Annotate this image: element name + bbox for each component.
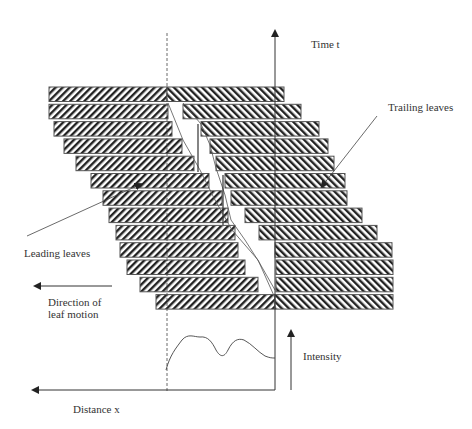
trailing-leaf-7 <box>231 191 347 206</box>
leading-leaves-label: Leading leaves <box>24 247 90 259</box>
trailing-leaf-13 <box>275 295 393 310</box>
trailing-leaf-3 <box>201 122 319 137</box>
direction-label-line1: Direction of <box>48 296 101 308</box>
leading-leaf-6 <box>91 174 209 189</box>
trailing-leaf-8 <box>245 208 362 223</box>
trailing-leaf-11 <box>276 260 393 275</box>
leading-leaf-1 <box>49 87 167 102</box>
trailing-leaves-pointer <box>323 116 377 185</box>
trailing-leaf-4 <box>210 139 328 154</box>
leading-leaf-12 <box>140 277 258 292</box>
leaf-pairs <box>49 87 393 309</box>
leading-leaf-3 <box>54 122 172 137</box>
trailing-leaf-10 <box>275 243 392 258</box>
trailing-leaves-label: Trailing leaves <box>388 101 453 113</box>
leading-leaf-2 <box>49 104 168 119</box>
leaf-sequence-diagram <box>0 0 472 429</box>
distance-axis-label: Distance x <box>73 403 120 415</box>
trailing-leaf-12 <box>276 277 393 292</box>
trailing-leaf-2 <box>183 104 301 119</box>
direction-label-line2: leaf motion <box>48 308 98 320</box>
leading-leaf-4 <box>64 139 182 154</box>
trailing-leaf-6 <box>225 174 345 189</box>
leading-leaf-10 <box>120 243 238 258</box>
leading-leaf-11 <box>127 260 245 275</box>
trailing-leaf-9 <box>259 225 377 240</box>
time-axis-label: Time t <box>311 38 340 50</box>
leading-leaf-13 <box>156 295 275 310</box>
intensity-label: Intensity <box>303 350 342 362</box>
intensity-profile-curve <box>166 336 275 370</box>
leading-leaf-5 <box>76 156 194 171</box>
trailing-leaf-1 <box>167 87 284 102</box>
leading-leaf-8 <box>109 208 228 223</box>
leading-leaf-9 <box>116 225 235 240</box>
